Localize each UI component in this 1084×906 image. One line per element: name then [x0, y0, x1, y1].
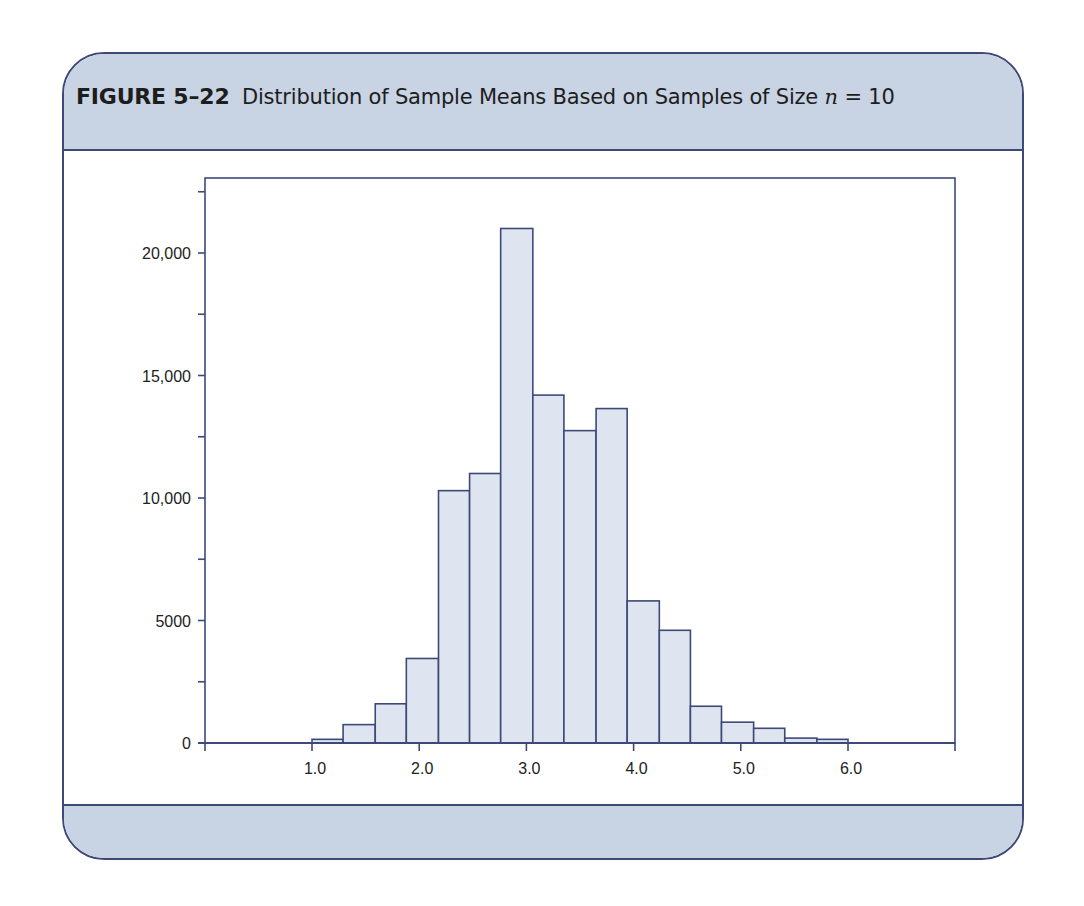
histogram-bar: [533, 395, 564, 743]
histogram-bar: [501, 229, 533, 744]
histogram-bar: [596, 409, 627, 743]
x-tick-label: 6.0: [840, 760, 862, 777]
x-tick-label: 1.0: [304, 760, 326, 777]
histogram-bar: [375, 704, 406, 743]
y-tick-label: 10,000: [142, 490, 191, 507]
y-tick-label: 20,000: [142, 245, 191, 262]
x-tick-label: 2.0: [411, 760, 433, 777]
y-tick-label: 15,000: [142, 368, 191, 385]
y-tick-label: 0: [182, 735, 191, 752]
histogram-bar: [438, 491, 469, 743]
histogram-bar: [470, 474, 501, 744]
histogram-bar: [659, 630, 690, 743]
histogram-bar: [690, 706, 721, 743]
histogram-bar: [343, 725, 375, 743]
x-tick-label: 3.0: [518, 760, 540, 777]
histogram-bar: [564, 431, 596, 743]
x-tick-label: 5.0: [733, 760, 755, 777]
x-tick-label: 4.0: [625, 760, 647, 777]
histogram-bar: [627, 601, 659, 743]
histogram-bar: [722, 722, 754, 743]
histogram-chart: 0500010,00015,00020,0001.02.03.04.05.06.…: [0, 0, 1084, 906]
y-tick-label: 5000: [155, 613, 191, 630]
histogram-bar: [754, 728, 785, 743]
histogram-bar: [406, 658, 438, 743]
